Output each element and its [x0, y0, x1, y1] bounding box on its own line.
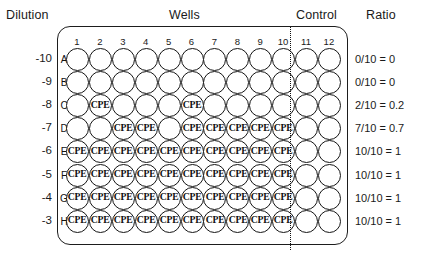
cpe-label: CPE	[114, 147, 133, 157]
cpe-label: CPE	[228, 193, 247, 203]
well-D3[interactable]: CPE	[112, 117, 135, 140]
well-A12[interactable]: CPE	[318, 48, 341, 71]
well-H7[interactable]: CPE	[203, 210, 226, 233]
well-F9[interactable]: CPE	[249, 164, 272, 187]
well-H2[interactable]: CPE	[89, 210, 112, 233]
cpe-label: CPE	[137, 170, 156, 180]
ratio-label-A: 0/10 = 0	[355, 53, 425, 65]
well-H6[interactable]: CPE	[181, 210, 204, 233]
well-F6[interactable]: CPE	[181, 164, 204, 187]
cpe-label: CPE	[114, 170, 133, 180]
well-H5[interactable]: CPE	[158, 210, 181, 233]
well-H11[interactable]: CPE	[295, 210, 318, 233]
cpe-label: CPE	[206, 124, 225, 134]
well-E5[interactable]: CPE	[158, 140, 181, 163]
well-F8[interactable]: CPE	[226, 164, 249, 187]
well-A5[interactable]: CPE	[158, 48, 181, 71]
header-wells: Wells	[169, 8, 200, 22]
well-H10[interactable]: CPE	[272, 210, 295, 233]
well-B2[interactable]: CPE	[89, 71, 112, 94]
well-G3[interactable]: CPE	[112, 187, 135, 210]
cpe-label: CPE	[114, 216, 133, 226]
well-F11[interactable]: CPE	[295, 164, 318, 187]
well-G8[interactable]: CPE	[226, 187, 249, 210]
cpe-label: CPE	[206, 170, 225, 180]
well-B12[interactable]: CPE	[318, 71, 341, 94]
cpe-label: CPE	[183, 170, 202, 180]
well-D5[interactable]: CPE	[158, 117, 181, 140]
well-B3[interactable]: CPE	[112, 71, 135, 94]
well-B11[interactable]: CPE	[295, 71, 318, 94]
ratio-label-B: 0/10 = 0	[355, 76, 425, 88]
cpe-label: CPE	[68, 147, 87, 157]
well-G4[interactable]: CPE	[135, 187, 158, 210]
well-C2[interactable]: CPE	[89, 94, 112, 117]
well-B6[interactable]: CPE	[181, 71, 204, 94]
ratio-label-D: 7/10 = 0.7	[355, 122, 425, 134]
well-H3[interactable]: CPE	[112, 210, 135, 233]
dilution-label-C: -8	[14, 98, 52, 110]
well-H1[interactable]: CPE	[66, 210, 89, 233]
dilution-label-B: -9	[14, 75, 52, 87]
well-C6[interactable]: CPE	[181, 94, 204, 117]
well-F7[interactable]: CPE	[203, 164, 226, 187]
well-D4[interactable]: CPE	[135, 117, 158, 140]
well-B4[interactable]: CPE	[135, 71, 158, 94]
well-F10[interactable]: CPE	[272, 164, 295, 187]
control-divider-line	[290, 27, 291, 250]
cpe-label: CPE	[251, 193, 270, 203]
well-A6[interactable]: CPE	[181, 48, 204, 71]
well-A4[interactable]: CPE	[135, 48, 158, 71]
well-B5[interactable]: CPE	[158, 71, 181, 94]
well-F2[interactable]: CPE	[89, 164, 112, 187]
well-C12[interactable]: CPE	[318, 94, 341, 117]
well-E6[interactable]: CPE	[181, 140, 204, 163]
cpe-label: CPE	[91, 170, 110, 180]
well-H9[interactable]: CPE	[249, 210, 272, 233]
cpe-label: CPE	[114, 193, 133, 203]
cpe-label: CPE	[251, 124, 270, 134]
well-F12[interactable]: CPE	[318, 164, 341, 187]
cpe-label: CPE	[206, 216, 225, 226]
well-G10[interactable]: CPE	[272, 187, 295, 210]
well-G12[interactable]: CPE	[318, 187, 341, 210]
well-G7[interactable]: CPE	[203, 187, 226, 210]
ratio-label-C: 2/10 = 0.2	[355, 99, 425, 111]
well-A2[interactable]: CPE	[89, 48, 112, 71]
well-H12[interactable]: CPE	[318, 210, 341, 233]
well-C4[interactable]: CPE	[135, 94, 158, 117]
cpe-label: CPE	[160, 216, 179, 226]
column-label-8: 8	[226, 36, 248, 47]
well-G6[interactable]: CPE	[181, 187, 204, 210]
column-label-2: 2	[89, 36, 111, 47]
well-E4[interactable]: CPE	[135, 140, 158, 163]
well-H8[interactable]: CPE	[226, 210, 249, 233]
column-label-6: 6	[181, 36, 203, 47]
well-G2[interactable]: CPE	[89, 187, 112, 210]
well-H4[interactable]: CPE	[135, 210, 158, 233]
cpe-label: CPE	[160, 193, 179, 203]
well-G9[interactable]: CPE	[249, 187, 272, 210]
well-C3[interactable]: CPE	[112, 94, 135, 117]
well-F5[interactable]: CPE	[158, 164, 181, 187]
cpe-label: CPE	[91, 193, 110, 203]
cpe-label: CPE	[137, 216, 156, 226]
well-F3[interactable]: CPE	[112, 164, 135, 187]
well-B1[interactable]: CPE	[66, 71, 89, 94]
well-G5[interactable]: CPE	[158, 187, 181, 210]
well-D6[interactable]: CPE	[181, 117, 204, 140]
dilution-label-A: -10	[14, 52, 52, 64]
well-A1[interactable]: CPE	[66, 48, 89, 71]
well-F1[interactable]: CPE	[66, 164, 89, 187]
well-G1[interactable]: CPE	[66, 187, 89, 210]
well-C5[interactable]: CPE	[158, 94, 181, 117]
well-G11[interactable]: CPE	[295, 187, 318, 210]
cpe-label: CPE	[114, 124, 133, 134]
cpe-label: CPE	[68, 193, 87, 203]
well-F4[interactable]: CPE	[135, 164, 158, 187]
well-A3[interactable]: CPE	[112, 48, 135, 71]
cpe-label: CPE	[68, 170, 87, 180]
well-A10[interactable]: CPE	[272, 48, 295, 71]
cpe-label: CPE	[183, 193, 202, 203]
well-A11[interactable]: CPE	[295, 48, 318, 71]
